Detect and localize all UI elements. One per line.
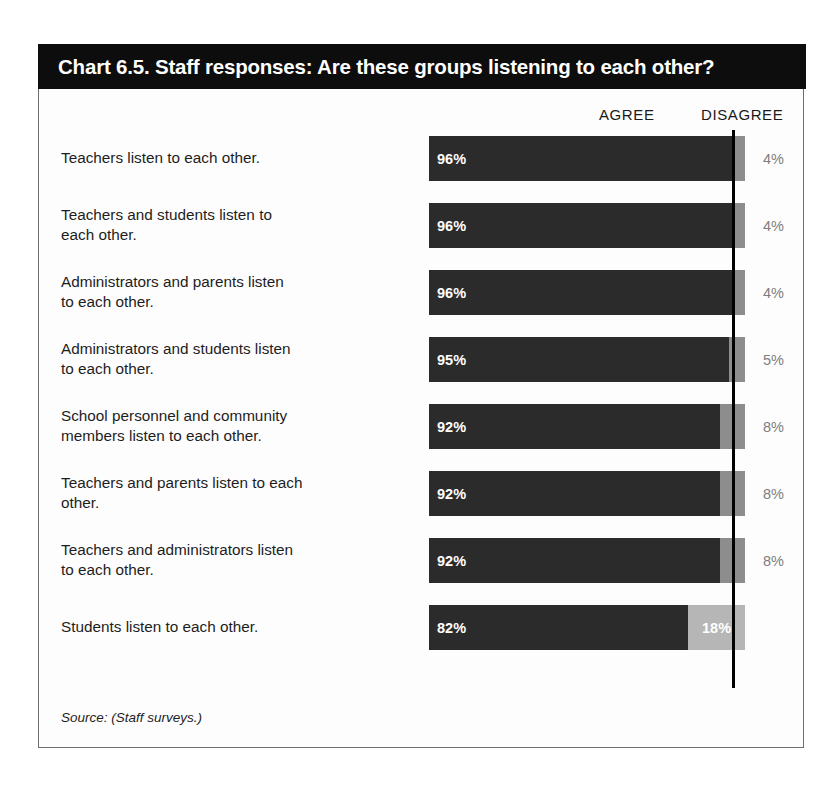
bar-value-disagree: 5% bbox=[763, 352, 784, 368]
bar-track: 92%8% bbox=[39, 538, 803, 583]
chart-row: Teachers and administrators listento eac… bbox=[39, 538, 803, 583]
bar-value-agree: 96% bbox=[429, 285, 466, 301]
bar-value-agree: 96% bbox=[429, 218, 466, 234]
bar-stack: 92% bbox=[429, 404, 745, 449]
bar-value-disagree: 4% bbox=[763, 218, 784, 234]
bar-value-disagree: 8% bbox=[763, 553, 784, 569]
bar-value-agree: 92% bbox=[429, 419, 466, 435]
column-header-disagree: DISAGREE bbox=[701, 106, 783, 123]
bar-stack: 96% bbox=[429, 270, 745, 315]
bar-segment-agree: 96% bbox=[429, 136, 732, 181]
column-header-agree: AGREE bbox=[599, 106, 655, 123]
chart-row: Teachers and parents listen to eachother… bbox=[39, 471, 803, 516]
chart-row: School personnel and communitymembers li… bbox=[39, 404, 803, 449]
bar-stack: 82%18% bbox=[429, 605, 745, 650]
column-header-row: AGREE DISAGREE bbox=[39, 106, 803, 130]
chart-figure-frame: Chart 6.5. Staff responses: Are these gr… bbox=[38, 44, 804, 748]
bar-value-disagree: 8% bbox=[763, 486, 784, 502]
bar-value-disagree: 4% bbox=[763, 151, 784, 167]
bar-value-agree: 82% bbox=[429, 620, 466, 636]
bar-value-agree: 95% bbox=[429, 352, 466, 368]
chart-row: Administrators and parents listento each… bbox=[39, 270, 803, 315]
bar-track: 96%4% bbox=[39, 136, 803, 181]
page-title: Chart 6.5. Staff responses: Are these gr… bbox=[38, 55, 714, 79]
bar-value-disagree: 8% bbox=[763, 419, 784, 435]
bar-track: 82%18% bbox=[39, 605, 803, 650]
reference-line bbox=[732, 130, 735, 688]
bar-track: 92%8% bbox=[39, 404, 803, 449]
bar-value-disagree: 4% bbox=[763, 285, 784, 301]
bar-segment-agree: 96% bbox=[429, 203, 732, 248]
chart-row: Teachers listen to each other.96%4% bbox=[39, 136, 803, 181]
bar-stack: 92% bbox=[429, 538, 745, 583]
bar-stack: 96% bbox=[429, 203, 745, 248]
chart-title-bar: Chart 6.5. Staff responses: Are these gr… bbox=[38, 44, 806, 89]
chart-plot-area: AGREE DISAGREE Teachers listen to each o… bbox=[39, 90, 803, 747]
bar-segment-agree: 92% bbox=[429, 471, 720, 516]
bar-track: 96%4% bbox=[39, 270, 803, 315]
bar-track: 92%8% bbox=[39, 471, 803, 516]
bar-stack: 92% bbox=[429, 471, 745, 516]
chart-row: Teachers and students listen toeach othe… bbox=[39, 203, 803, 248]
bar-value-disagree: 18% bbox=[702, 620, 731, 636]
bar-value-agree: 92% bbox=[429, 553, 466, 569]
bar-value-agree: 92% bbox=[429, 486, 466, 502]
bar-segment-agree: 92% bbox=[429, 404, 720, 449]
source-note: Source: (Staff surveys.) bbox=[61, 710, 202, 725]
chart-row: Administrators and students listento eac… bbox=[39, 337, 803, 382]
chart-row: Students listen to each other.82%18% bbox=[39, 605, 803, 650]
bar-segment-agree: 82% bbox=[429, 605, 688, 650]
bar-stack: 95% bbox=[429, 337, 745, 382]
bar-segment-agree: 96% bbox=[429, 270, 732, 315]
bar-track: 95%5% bbox=[39, 337, 803, 382]
bar-value-agree: 96% bbox=[429, 151, 466, 167]
bar-stack: 96% bbox=[429, 136, 745, 181]
bar-segment-agree: 95% bbox=[429, 337, 729, 382]
bar-segment-agree: 92% bbox=[429, 538, 720, 583]
bar-segment-disagree: 18% bbox=[688, 605, 745, 650]
bar-track: 96%4% bbox=[39, 203, 803, 248]
